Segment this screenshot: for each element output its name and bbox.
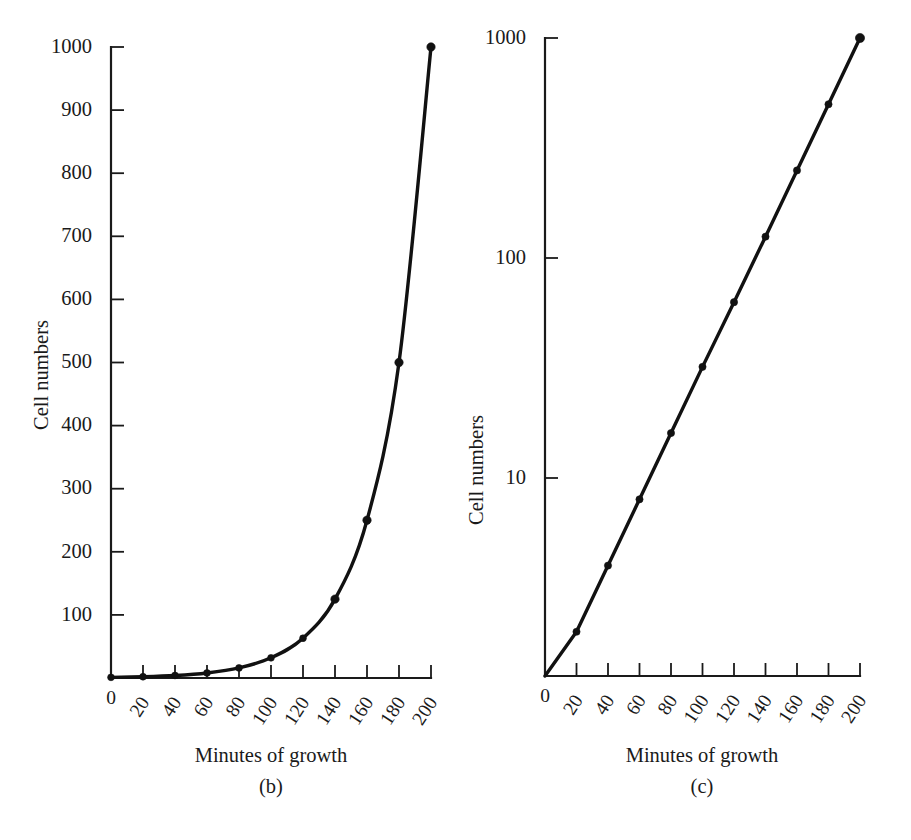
panel-b-x-tick-label: 100 (248, 693, 282, 729)
panel-c-x-tick-label: 80 (653, 691, 681, 719)
panel-b-y-tick-label: 700 (61, 224, 92, 246)
panel-b-y-tick-group: 1000900800700600500400300200100 (51, 35, 124, 625)
panel-c-x-tick-label: 100 (679, 691, 713, 727)
panel-b-y-tick-label: 400 (61, 413, 92, 435)
panel-c-data-point (699, 363, 706, 370)
panel-b-data-curve (111, 47, 431, 677)
panel-c-data-point (855, 33, 864, 42)
panel-c-data-point (604, 562, 611, 569)
panel-c-x-tick-label: 200 (837, 691, 871, 727)
panel-b-x-tick-label: 200 (408, 693, 442, 729)
panel-b-data-point (300, 635, 307, 642)
panel-b-y-tick-label: 500 (61, 350, 92, 372)
panel-b-data-point (363, 516, 371, 524)
panel-b-x-tick-label: 80 (221, 693, 249, 721)
panel-b-x-tick-label: 60 (189, 693, 217, 721)
panel-c-data-point (636, 496, 643, 503)
panel-b-caption: (b) (259, 775, 283, 798)
panel-b-x-tick-group: 020406080100120140160180200 (106, 665, 441, 729)
panel-b-svg: 1000900800700600500400300200100 02040608… (0, 0, 456, 840)
panel-b-data-point (140, 673, 147, 680)
panel-b-y-tick-label: 900 (61, 98, 92, 120)
panel-b-y-tick-label: 200 (61, 540, 92, 562)
panel-b-x-tick-label: 20 (125, 693, 153, 721)
panel-c-x-tick-label: 20 (559, 691, 587, 719)
panel-c-y-tick-label: 10 (506, 466, 527, 488)
growth-curve-figure: 1000900800700600500400300200100 02040608… (0, 0, 911, 840)
panel-b-y-tick-label: 1000 (51, 35, 92, 57)
panel-b-data-point (236, 665, 243, 672)
panel-c-x-tick-label: 60 (622, 691, 650, 719)
panel-c-data-point (573, 628, 580, 635)
panel-b-data-point (395, 358, 403, 366)
panel-b-y-tick-label: 600 (61, 287, 92, 309)
panel-c-y-tick-label: 1000 (485, 26, 526, 48)
panel-c-data-point (793, 167, 800, 174)
panel-b-data-point (268, 654, 275, 661)
panel-b-x-axis-title: Minutes of growth (195, 744, 348, 767)
panel-b-data-point (172, 672, 179, 679)
panel-c-y-tick-group: 100010010 (485, 26, 558, 488)
panel-b-x-tick-label: 0 (106, 687, 116, 708)
panel-b-x-tick-label: 160 (344, 693, 378, 729)
panel-b-y-tick-label: 300 (61, 476, 92, 498)
panel-b-data-point (331, 595, 339, 603)
panel-c-x-tick-label: 40 (590, 691, 618, 719)
panel-b-y-axis-title: Cell numbers (30, 320, 52, 430)
panel-b-data-point (427, 43, 435, 51)
panel-c-x-tick-label: 120 (711, 691, 745, 727)
panel-b-x-tick-label: 140 (312, 693, 346, 729)
panel-b-x-tick-label: 40 (157, 693, 185, 721)
panel-b-linear-plot: 1000900800700600500400300200100 02040608… (0, 0, 456, 840)
panel-c-y-tick-label: 100 (495, 246, 526, 268)
panel-c-x-axis-title: Minutes of growth (626, 744, 779, 767)
panel-c-data-point (730, 299, 737, 306)
panel-c-svg: 100010010 020406080100120140160180200 Ce… (455, 0, 911, 840)
panel-c-x-tick-group: 020406080100120140160180200 (540, 663, 870, 727)
panel-c-data-curve (545, 38, 860, 676)
panel-b-data-point (204, 670, 211, 677)
panel-b-x-tick-label: 120 (280, 693, 314, 729)
panel-b-y-tick-label: 800 (61, 161, 92, 183)
panel-b-data-markers (108, 43, 436, 681)
panel-c-data-point (762, 233, 769, 240)
panel-c-y-axis-title: Cell numbers (465, 415, 487, 525)
panel-c-semilog-plot: 100010010 020406080100120140160180200 Ce… (455, 0, 911, 840)
panel-c-x-tick-label: 160 (774, 691, 808, 727)
panel-c-x-tick-label: 140 (742, 691, 776, 727)
panel-b-x-tick-label: 180 (376, 693, 410, 729)
panel-c-caption: (c) (691, 775, 714, 798)
panel-c-x-tick-label: 180 (805, 691, 839, 727)
panel-c-data-point (825, 101, 832, 108)
panel-c-data-point (667, 429, 674, 436)
panel-b-y-tick-label: 100 (61, 603, 92, 625)
panel-c-x-tick-label: 0 (540, 685, 550, 706)
panel-b-data-point (108, 674, 115, 681)
panel-b-axes (111, 47, 431, 678)
